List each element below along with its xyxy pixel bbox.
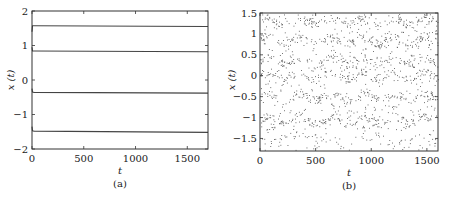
- plot-area-b: [260, 14, 439, 151]
- y-tick-label: 1: [22, 40, 28, 51]
- series-line: [32, 47, 208, 52]
- x-tick-label: 500: [306, 155, 325, 166]
- y-tick-label: 1.5: [241, 8, 257, 19]
- y-tick-label: −1.5: [233, 133, 257, 144]
- chart-a-svg: 2 1 0 −1 −2 0 500 1000 1500 t x (t) (a): [0, 0, 225, 199]
- axes-frame-a: [32, 11, 208, 149]
- series-line: [32, 127, 208, 133]
- y-tick-label: 0: [251, 70, 257, 81]
- x-tick-label: 1000: [123, 153, 148, 164]
- y-axis-label: x (t): [5, 70, 16, 91]
- y-axis-label: x (t): [226, 70, 237, 91]
- y-tick-label: 1: [251, 28, 257, 39]
- y-tick-label: −2: [13, 144, 28, 155]
- y-tick-label: −1: [242, 112, 257, 123]
- y-tick-label: 0.5: [241, 49, 257, 60]
- plot-area-a: [32, 26, 208, 133]
- panel-caption: (a): [113, 178, 127, 189]
- x-tick-label: 500: [74, 153, 93, 164]
- x-tick-label: 0: [257, 155, 263, 166]
- x-axis-label: t: [118, 165, 123, 176]
- series-line: [32, 89, 208, 94]
- panel-caption: (b): [342, 180, 356, 191]
- chart-panel-a: 2 1 0 −1 −2 0 500 1000 1500 t x (t) (a): [0, 0, 225, 199]
- y-tick-label: 0: [22, 75, 28, 86]
- ticks-a: [32, 11, 208, 149]
- series-line: [32, 26, 208, 32]
- x-tick-label: 0: [29, 153, 35, 164]
- chart-b-svg: 1.5 1 0.5 0 −0.5 −1 −1.5 0 500 1000 1500…: [225, 0, 451, 199]
- y-tick-label: −0.5: [233, 91, 257, 102]
- x-axis-label: t: [347, 167, 352, 178]
- x-tick-label: 1500: [414, 155, 439, 166]
- x-tick-label: 1500: [175, 153, 200, 164]
- chart-panel-b: 1.5 1 0.5 0 −0.5 −1 −1.5 0 500 1000 1500…: [225, 0, 451, 199]
- y-tick-label: −1: [13, 109, 28, 120]
- x-tick-label: 1000: [359, 155, 384, 166]
- y-tick-label: 2: [22, 6, 28, 17]
